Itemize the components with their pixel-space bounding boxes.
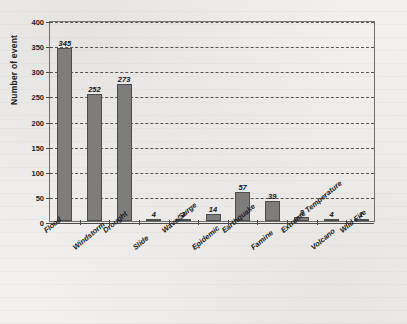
bar-value-label: 39 — [268, 192, 276, 201]
bar — [324, 219, 339, 221]
x-tick — [139, 220, 140, 225]
bar-value-label: 57 — [238, 183, 246, 192]
y-tick-label-250: 250 — [31, 93, 44, 102]
bar-value-label: 273 — [118, 75, 131, 84]
bar-chart: Number of event 050100150200250300350400… — [0, 0, 407, 324]
x-tick — [80, 220, 81, 225]
x-tick — [198, 220, 199, 225]
y-tick-label-100: 100 — [31, 168, 44, 177]
bar-value-label: 345 — [59, 39, 72, 48]
y-tick-50 — [46, 198, 51, 199]
y-tick-250 — [46, 97, 51, 98]
y-tick-label-200: 200 — [31, 118, 44, 127]
x-axis-label: Slide — [131, 233, 151, 251]
x-axis-label: Famine — [249, 228, 275, 252]
bar — [87, 94, 102, 221]
x-axis-label: Flood — [42, 215, 63, 235]
gridline-400 — [50, 22, 374, 23]
y-tick-label-50: 50 — [36, 193, 44, 202]
y-tick-label-400: 400 — [31, 18, 44, 27]
bar — [206, 214, 221, 221]
bar-value-label: 4 — [329, 210, 333, 219]
gridline-300 — [50, 72, 374, 73]
y-tick-350 — [46, 47, 51, 48]
y-tick-300 — [46, 72, 51, 73]
bar — [265, 201, 280, 221]
y-tick-150 — [46, 148, 51, 149]
x-tick — [317, 220, 318, 225]
bar — [117, 84, 132, 221]
gridline-350 — [50, 47, 374, 48]
y-tick-label-150: 150 — [31, 143, 44, 152]
x-tick — [257, 220, 258, 225]
y-axis-title: Number of event — [9, 0, 19, 105]
x-axis-label: Epidemic — [190, 224, 221, 252]
y-tick-400 — [46, 22, 51, 23]
y-tick-200 — [46, 123, 51, 124]
bar-value-label: 14 — [209, 205, 217, 214]
y-tick-label-350: 350 — [31, 43, 44, 52]
bar — [146, 219, 161, 221]
y-tick-100 — [46, 173, 51, 174]
x-axis-label: Volcano — [309, 226, 337, 251]
x-axis-label: Windstorm — [71, 220, 107, 252]
bar — [57, 48, 72, 221]
y-tick-label-300: 300 — [31, 68, 44, 77]
bar-value-label: 4 — [152, 210, 156, 219]
bar-value-label: 252 — [88, 85, 101, 94]
